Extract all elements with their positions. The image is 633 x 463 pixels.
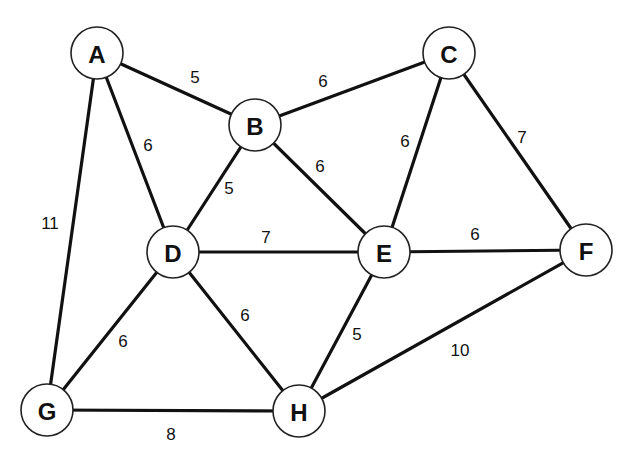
edge-e-f xyxy=(384,250,586,252)
edge-weight-b-e: 6 xyxy=(315,157,324,176)
edge-g-h xyxy=(47,410,299,411)
node-label: F xyxy=(579,238,594,265)
graph-diagram: 56116566776665108 ABCDEFGH xyxy=(0,0,633,463)
node-d: D xyxy=(147,226,199,278)
weights-layer: 56116566776665108 xyxy=(41,68,527,444)
edge-weight-d-e: 7 xyxy=(261,228,270,247)
node-label: E xyxy=(376,240,392,267)
edge-c-e xyxy=(384,53,449,252)
node-f: F xyxy=(560,224,612,276)
node-c: C xyxy=(423,27,475,79)
edge-weight-d-g: 6 xyxy=(118,332,127,351)
edge-c-f xyxy=(449,53,586,250)
edge-weight-e-f: 6 xyxy=(470,225,479,244)
node-label: D xyxy=(164,240,181,267)
node-label: G xyxy=(38,398,57,425)
node-g: G xyxy=(21,384,73,436)
edge-weight-d-h: 6 xyxy=(240,306,249,325)
edge-weight-g-h: 8 xyxy=(166,425,175,444)
node-a: A xyxy=(71,27,123,79)
edge-weight-f-h: 10 xyxy=(451,341,470,360)
edge-weight-b-d: 5 xyxy=(224,179,233,198)
edge-weight-e-h: 5 xyxy=(352,325,361,344)
edge-weight-a-b: 5 xyxy=(190,68,199,87)
node-h: H xyxy=(273,385,325,437)
edge-weight-a-d: 6 xyxy=(143,136,152,155)
edge-b-e xyxy=(255,125,384,252)
edges-layer xyxy=(47,53,586,411)
edge-weight-b-c: 6 xyxy=(318,72,327,91)
edge-weight-c-f: 7 xyxy=(517,128,526,147)
node-label: B xyxy=(246,113,263,140)
edge-weight-a-g: 11 xyxy=(41,214,59,233)
edge-weight-c-e: 6 xyxy=(400,132,409,151)
node-b: B xyxy=(229,99,281,151)
node-label: C xyxy=(440,41,457,68)
node-e: E xyxy=(358,226,410,278)
node-label: A xyxy=(88,41,105,68)
edge-b-c xyxy=(255,53,449,125)
graph-svg: 56116566776665108 ABCDEFGH xyxy=(0,0,633,463)
edge-d-h xyxy=(173,252,299,411)
node-label: H xyxy=(290,399,307,426)
